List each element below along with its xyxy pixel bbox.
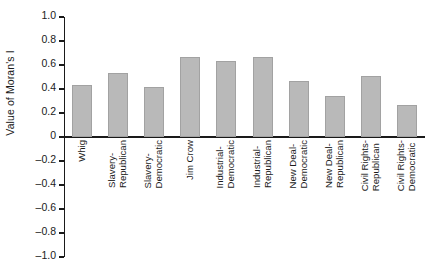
y-tick-label: 0.2 xyxy=(16,105,56,117)
x-tick-label-slot: Slavery-Republican xyxy=(100,140,136,220)
y-tick-label: –0.6 xyxy=(16,201,56,213)
x-tick-label: Industrial-Democratic xyxy=(216,140,237,189)
y-tick-mark xyxy=(59,256,64,257)
y-tick-label: 0.8 xyxy=(16,33,56,45)
x-tick-label-slot: Civil Rights-Republican xyxy=(353,140,389,220)
bar xyxy=(144,87,164,137)
x-tick-label-slot: Civil Rights-Democratic xyxy=(389,140,425,220)
bar-slot xyxy=(353,17,389,137)
bar-slot xyxy=(208,17,244,137)
x-tick-label: New Deal-Democratic xyxy=(288,140,309,189)
bar-slot xyxy=(389,17,425,137)
x-axis-category-labels: WhigSlavery-RepublicanSlavery-Democratic… xyxy=(64,140,425,220)
bar xyxy=(289,81,309,137)
x-tick-label-slot: New Deal-Democratic xyxy=(281,140,317,220)
bar xyxy=(72,85,92,137)
y-tick-label: 0.6 xyxy=(16,57,56,69)
y-tick-mark xyxy=(59,232,64,233)
bar xyxy=(108,73,128,137)
bar-slot xyxy=(136,17,172,137)
bar xyxy=(253,57,273,137)
y-tick-label: 0.4 xyxy=(16,81,56,93)
plot-area: 1.00.80.60.40.20–0.2–0.4–0.6–0.8–1.0 xyxy=(64,17,425,257)
x-tick-label: Civil Rights-Democratic xyxy=(396,140,417,191)
bar-slot xyxy=(172,17,208,137)
bar-slot xyxy=(281,17,317,137)
x-tick-label: Industrial-Republican xyxy=(252,140,273,188)
bar xyxy=(325,96,345,137)
y-tick-label: –0.4 xyxy=(16,177,56,189)
bar-series xyxy=(64,17,425,137)
x-tick-label: Whig xyxy=(77,140,88,162)
bar-slot xyxy=(64,17,100,137)
x-tick-label: Slavery-Republican xyxy=(108,140,129,188)
x-tick-label-slot: Slavery-Democratic xyxy=(136,140,172,220)
y-axis-title-text: Value of Moran's I xyxy=(4,50,16,135)
bar xyxy=(397,105,417,137)
x-tick-label-slot: Whig xyxy=(64,140,100,220)
x-tick-label: Jim Crow xyxy=(185,140,196,180)
y-tick-label: 1.0 xyxy=(16,9,56,21)
y-tick-label: –1.0 xyxy=(16,249,56,261)
x-tick-label: Civil Rights-Republican xyxy=(360,140,381,191)
x-tick-label-slot: Industrial-Democratic xyxy=(208,140,244,220)
x-tick-label-slot: Industrial-Republican xyxy=(245,140,281,220)
bar-slot xyxy=(100,17,136,137)
x-tick-label: New Deal-Republican xyxy=(324,140,345,188)
bar xyxy=(180,57,200,137)
x-tick-label-slot: Jim Crow xyxy=(172,140,208,220)
y-tick-label: –0.8 xyxy=(16,225,56,237)
bar xyxy=(361,76,381,137)
y-tick-label: 0 xyxy=(16,129,56,141)
bar xyxy=(216,61,236,137)
x-tick-label-slot: New Deal-Republican xyxy=(317,140,353,220)
bar-slot xyxy=(245,17,281,137)
bar-slot xyxy=(317,17,353,137)
morans-i-bar-chart: Value of Moran's I 1.00.80.60.40.20–0.2–… xyxy=(0,0,437,267)
y-tick-label: –0.2 xyxy=(16,153,56,165)
x-tick-label: Slavery-Democratic xyxy=(144,140,165,189)
